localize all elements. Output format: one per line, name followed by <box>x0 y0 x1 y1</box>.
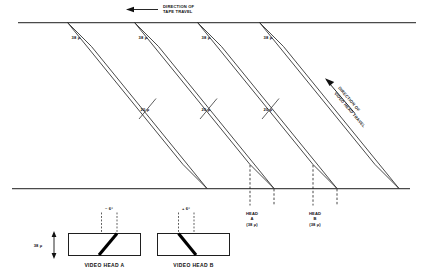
head-a-angle-label: – 6° <box>105 206 113 211</box>
head-height-arrow-down <box>52 253 57 259</box>
video-track: 38 µ <box>198 23 338 189</box>
track-outline <box>260 23 400 189</box>
guard-band-group: 20 µ 20 µ 20 µ <box>139 99 279 120</box>
tape-direction-label-line1: DIRECTION OF <box>163 4 194 9</box>
head-callout-width: (38 µ) <box>309 222 321 227</box>
track-outline <box>68 23 208 189</box>
video-track: 38 µ <box>135 23 275 189</box>
head-b-caption: VIDEO HEAD B <box>173 262 213 268</box>
head-b-angle-label: + 6° <box>182 206 190 211</box>
tape-direction-indicator: DIRECTION OF TAPE TRAVEL <box>126 4 194 14</box>
track-width-label: 38 µ <box>202 35 211 40</box>
video-track: 38 µ <box>260 23 400 189</box>
head-a-caption: VIDEO HEAD A <box>84 262 124 268</box>
track-width-label: 38 µ <box>72 35 81 40</box>
tape-direction-label-line2: TAPE TRAVEL <box>163 9 193 14</box>
guard-band-label: 20 µ <box>264 107 273 112</box>
head-direction-arrow-head <box>325 78 334 86</box>
head-a-body <box>69 234 141 256</box>
tape-direction-arrow-head <box>126 7 134 12</box>
video-track: 38 µ <box>68 23 208 189</box>
diagram-canvas: DIRECTION OF TAPE TRAVEL 38 µ 38 µ 38 µ <box>0 0 427 275</box>
head-direction-indicator: DIRECTION OF VIDEO HEAD TRAVEL <box>325 78 367 129</box>
guard-band-label: 20 µ <box>202 107 211 112</box>
track-outline <box>135 23 275 189</box>
track-width-label: 38 µ <box>264 35 273 40</box>
video-tape-track-diagram: DIRECTION OF TAPE TRAVEL 38 µ 38 µ 38 µ <box>0 0 427 275</box>
track-width-label: 38 µ <box>139 35 148 40</box>
head-callout-width: (38 µ) <box>246 222 258 227</box>
head-callout-name-line2: B <box>313 216 316 221</box>
head-height-label: 38 µ <box>34 243 43 248</box>
guard-band-label: 20 µ <box>141 107 150 112</box>
track-outline <box>198 23 338 189</box>
video-head-a-detail: – 6° VIDEO HEAD A <box>69 206 141 268</box>
head-height-arrow-up <box>52 231 57 237</box>
video-head-b-detail: + 6° VIDEO HEAD B <box>158 206 230 268</box>
head-callout-name-line2: A <box>250 216 253 221</box>
head-callout-name-line1: HEAD <box>246 211 258 216</box>
head-callout-name-line1: HEAD <box>309 211 321 216</box>
head-height-dimension: 38 µ <box>34 231 57 259</box>
